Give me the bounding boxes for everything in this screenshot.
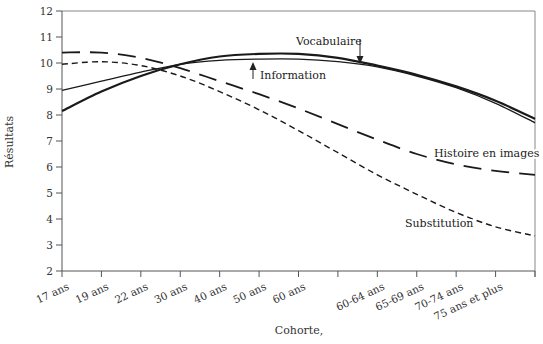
x-tick-label: 30 ans bbox=[152, 280, 189, 306]
x-axis: 17 ans19 ans22 ans30 ans40 ans50 ans60 a… bbox=[34, 271, 535, 322]
y-tick-label: 6 bbox=[46, 161, 53, 173]
y-tick-label: 11 bbox=[40, 31, 53, 43]
x-tick-label: 19 ans bbox=[73, 280, 110, 306]
y-tick-label: 9 bbox=[46, 83, 53, 95]
annotation-information: Information bbox=[250, 62, 327, 82]
y-tick-label: 12 bbox=[40, 5, 53, 17]
x-tick-label: 50 ans bbox=[231, 280, 268, 306]
vocabulaire-label: Vocabulaire bbox=[295, 35, 362, 48]
information-label: Information bbox=[260, 69, 326, 82]
x-tick-label: 40 ans bbox=[192, 280, 229, 306]
y-tick-label: 2 bbox=[46, 265, 53, 277]
y-axis: 23456789101112 bbox=[40, 5, 62, 277]
x-axis-label: Cohorte, bbox=[275, 324, 323, 337]
series-vocabulaire bbox=[62, 53, 535, 118]
y-tick-label: 7 bbox=[46, 135, 53, 147]
arrowhead-up-icon bbox=[250, 62, 257, 70]
y-tick-label: 8 bbox=[46, 109, 53, 121]
y-tick-label: 4 bbox=[46, 213, 53, 225]
y-tick-label: 10 bbox=[40, 57, 53, 69]
y-tick-label: 3 bbox=[46, 239, 53, 251]
x-tick-label: 22 ans bbox=[113, 280, 150, 306]
x-tick-label: 17 ans bbox=[34, 280, 71, 306]
substitution-label: Substitution bbox=[405, 217, 473, 230]
line-chart: 23456789101112 17 ans19 ans22 ans30 ans4… bbox=[0, 0, 543, 344]
y-tick-label: 5 bbox=[46, 187, 53, 199]
y-axis-label: Résultats bbox=[3, 116, 16, 168]
x-tick-label: 60 ans bbox=[270, 280, 307, 306]
histoire-label: Histoire en images bbox=[434, 147, 540, 160]
plot-frame bbox=[62, 11, 535, 277]
